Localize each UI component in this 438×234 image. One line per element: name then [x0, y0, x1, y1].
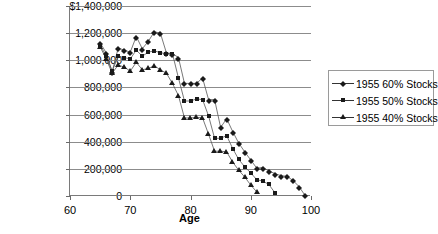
data-point-marker — [163, 70, 169, 75]
data-point-marker — [236, 138, 242, 144]
data-point-marker — [176, 76, 180, 80]
data-point-marker — [223, 149, 229, 154]
x-axis-tick — [251, 196, 252, 200]
data-point-marker — [175, 53, 181, 59]
data-point-marker — [169, 80, 175, 85]
data-point-marker — [152, 49, 156, 53]
data-point-marker — [230, 127, 236, 133]
data-point-marker — [200, 73, 206, 79]
data-point-marker — [133, 32, 139, 38]
legend-item[interactable]: 1955 60% Stocks — [332, 75, 430, 92]
data-point-marker — [207, 114, 211, 118]
data-point-marker — [182, 99, 186, 103]
data-point-marker — [134, 48, 138, 52]
data-point-marker — [164, 52, 168, 56]
x-axis-tick — [191, 196, 192, 200]
data-point-marker — [127, 68, 133, 73]
legend-item[interactable]: 1955 50% Stocks — [332, 92, 430, 109]
data-point-marker — [133, 59, 139, 64]
data-point-marker — [248, 182, 254, 187]
diamond-marker-icon — [332, 78, 354, 90]
square-marker-icon — [332, 95, 354, 107]
triangle-marker-icon — [332, 112, 354, 124]
data-point-marker — [242, 147, 248, 153]
data-point-marker — [231, 147, 235, 151]
legend-label: 1955 60% Stocks — [354, 78, 438, 90]
data-point-marker — [158, 51, 162, 55]
data-point-marker — [237, 157, 241, 161]
data-point-marker — [103, 48, 109, 54]
data-point-marker — [127, 47, 133, 53]
data-point-marker — [225, 134, 229, 138]
data-point-marker — [189, 99, 193, 103]
legend-item[interactable]: 1955 40% Stocks — [332, 109, 430, 126]
data-point-marker — [201, 98, 205, 102]
data-point-marker — [170, 52, 174, 56]
x-axis-tick — [130, 196, 131, 200]
data-point-marker — [248, 155, 254, 161]
data-point-marker — [236, 167, 242, 172]
data-point-marker — [157, 28, 163, 34]
data-point-marker — [243, 165, 247, 169]
data-point-marker — [128, 57, 132, 61]
x-axis-title: Age — [69, 212, 310, 224]
data-point-marker — [296, 182, 302, 188]
data-point-marker — [273, 191, 277, 195]
data-point-marker — [267, 182, 271, 186]
data-point-marker — [97, 44, 103, 49]
data-point-marker — [302, 190, 308, 196]
data-point-marker — [242, 174, 248, 179]
data-point-marker — [255, 178, 259, 182]
data-point-marker — [205, 131, 211, 136]
data-point-marker — [290, 175, 296, 181]
legend-label: 1955 50% Stocks — [354, 95, 438, 107]
data-point-marker — [195, 97, 199, 101]
data-point-marker — [219, 136, 223, 140]
data-point-marker — [122, 56, 126, 60]
data-point-marker — [212, 95, 218, 101]
data-point-marker — [254, 189, 260, 194]
plot-area: 60708090100 — [69, 6, 310, 196]
data-point-marker — [146, 50, 150, 54]
data-point-marker — [116, 54, 120, 58]
data-point-marker — [109, 70, 115, 75]
data-point-marker — [103, 56, 109, 61]
legend-label: 1955 40% Stocks — [354, 112, 438, 124]
chart-legend: 1955 60% Stocks1955 50% Stocks1955 40% S… — [328, 70, 434, 126]
data-point-marker — [261, 179, 265, 183]
data-point-marker — [199, 115, 205, 120]
x-axis-tick — [70, 196, 71, 200]
data-point-marker — [249, 171, 253, 175]
x-axis-tick — [311, 196, 312, 200]
data-point-marker — [213, 136, 217, 140]
data-point-marker — [229, 159, 235, 164]
data-point-marker — [224, 114, 230, 120]
data-point-marker — [140, 54, 144, 58]
data-point-marker — [175, 93, 181, 98]
